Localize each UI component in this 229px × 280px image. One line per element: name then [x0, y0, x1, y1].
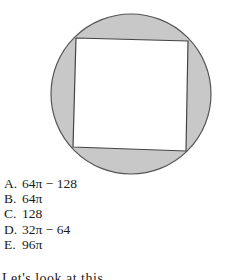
choice-c[interactable]: C. 128: [4, 206, 77, 221]
choice-value: 64π − 128: [22, 176, 77, 191]
inscribed-square: [73, 38, 188, 151]
choice-letter: E.: [4, 237, 22, 252]
choice-value: 128: [22, 206, 42, 221]
choice-b[interactable]: B. 64π: [4, 191, 77, 206]
choice-value: 32π − 64: [22, 222, 70, 237]
choice-letter: D.: [4, 222, 22, 237]
choice-value: 96π: [22, 237, 42, 252]
choice-letter: B.: [4, 191, 22, 206]
cutoff-text: Let's look at this...: [2, 271, 115, 280]
choice-letter: C.: [4, 206, 22, 221]
inscribed-square-figure: [0, 0, 229, 180]
choice-letter: A.: [4, 176, 22, 191]
choice-d[interactable]: D. 32π − 64: [4, 222, 77, 237]
choice-a[interactable]: A. 64π − 128: [4, 176, 77, 191]
choice-e[interactable]: E. 96π: [4, 237, 77, 252]
choice-value: 64π: [22, 191, 42, 206]
answer-choices: A. 64π − 128 B. 64π C. 128 D. 32π − 64 E…: [4, 176, 77, 252]
